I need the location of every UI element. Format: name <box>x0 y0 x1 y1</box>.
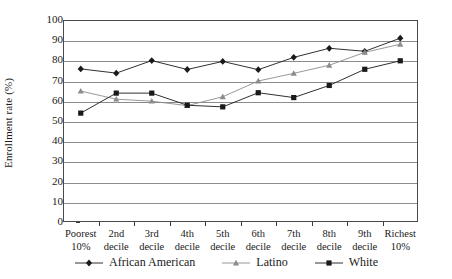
legend-item-african-american[interactable]: African American <box>74 255 195 270</box>
x-axis-tick-label: Richest10% <box>373 228 427 253</box>
y-axis-title: Enrollment rate (%) <box>2 0 14 58</box>
data-point-diamond <box>86 259 92 266</box>
y-axis-tick-label: 100 <box>23 14 63 25</box>
x-axis-tick-mark <box>205 222 206 226</box>
data-point-diamond <box>149 57 155 64</box>
data-point-diamond <box>291 54 297 61</box>
x-axis-tick-mark <box>134 222 135 226</box>
data-point-triangle <box>397 41 403 47</box>
data-point-diamond <box>220 58 226 65</box>
data-point-square <box>398 58 403 63</box>
data-point-square <box>326 260 331 265</box>
x-axis-tick-label-line: Richest <box>373 228 427 241</box>
data-point-square <box>185 103 190 108</box>
data-point-square <box>291 95 296 100</box>
legend-item-white[interactable]: White <box>314 255 378 270</box>
series-white <box>78 58 403 116</box>
y-axis-tick-label: 50 <box>23 115 63 126</box>
data-point-diamond <box>184 66 190 73</box>
series-latino <box>78 41 404 108</box>
y-axis-tick-label: 70 <box>23 75 63 86</box>
data-point-triangle <box>220 94 226 100</box>
data-point-diamond <box>326 45 332 52</box>
x-axis-tick-mark <box>276 222 277 226</box>
series-data-layer <box>63 20 418 222</box>
y-axis-tick-label: 30 <box>23 155 63 166</box>
y-axis-tick-label: 80 <box>23 54 63 65</box>
data-point-square <box>220 104 225 109</box>
legend-label: African American <box>109 255 195 270</box>
x-axis-tick-label-line: 10% <box>373 241 427 254</box>
data-point-square <box>362 67 367 72</box>
legend-label: White <box>349 255 378 270</box>
data-point-square <box>114 91 119 96</box>
enrollment-rate-line-chart: Enrollment rate (%) 10090807060504030201… <box>0 0 452 279</box>
x-axis-tick-mark <box>347 222 348 226</box>
legend-swatch-triangle-icon <box>221 257 251 269</box>
legend-item-latino[interactable]: Latino <box>221 255 287 270</box>
y-axis-tick-label: 90 <box>23 34 63 45</box>
x-axis-tick-mark <box>383 222 384 226</box>
y-axis-tick-label: 40 <box>23 135 63 146</box>
legend-swatch-diamond-icon <box>74 257 104 269</box>
data-point-diamond <box>255 66 261 73</box>
y-axis-tick-label: 10 <box>23 196 63 207</box>
data-point-square <box>327 83 332 88</box>
y-axis-tick-label: 0 <box>23 216 63 227</box>
x-axis-tick-mark <box>99 222 100 226</box>
chart-legend: African AmericanLatinoWhite <box>0 255 452 270</box>
y-axis-tick-mark <box>76 222 80 223</box>
data-point-diamond <box>397 35 403 42</box>
data-point-triangle <box>78 88 84 94</box>
x-axis-tick-mark <box>170 222 171 226</box>
data-point-square <box>256 90 261 95</box>
series-line <box>81 38 401 73</box>
data-point-square <box>149 91 154 96</box>
y-axis-tick-label: 20 <box>23 176 63 187</box>
legend-label: Latino <box>256 255 287 270</box>
y-axis-title-text: Enrollment rate (%) <box>2 58 14 188</box>
data-point-diamond <box>113 70 119 77</box>
x-axis-tick-mark <box>241 222 242 226</box>
legend-swatch-square-icon <box>314 257 344 269</box>
data-point-square <box>78 111 83 116</box>
y-axis-tick-label: 60 <box>23 95 63 106</box>
data-point-diamond <box>78 65 84 72</box>
x-axis-tick-mark <box>312 222 313 226</box>
